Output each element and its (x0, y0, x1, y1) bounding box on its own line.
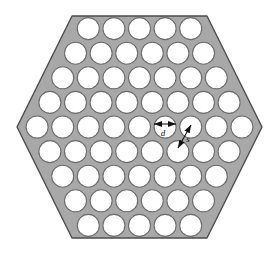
hole (116, 141, 138, 163)
hole (77, 116, 99, 138)
hole (39, 141, 61, 163)
hole (65, 190, 87, 212)
hole (65, 141, 87, 163)
hole (90, 91, 112, 113)
figure-canvas: ds (0, 0, 279, 253)
perforated-plate-diagram: ds (0, 0, 279, 253)
hole (90, 190, 112, 212)
hole (52, 165, 74, 187)
hole (193, 91, 215, 113)
hole (154, 214, 176, 236)
pitch-label: s (186, 134, 190, 144)
hole (116, 42, 138, 64)
hole (205, 67, 227, 89)
hole (154, 18, 176, 40)
hole (167, 190, 189, 212)
hole (103, 214, 125, 236)
hole (103, 116, 125, 138)
hole (180, 116, 202, 138)
hole (180, 18, 202, 40)
hole (180, 214, 202, 236)
hole (65, 42, 87, 64)
hole (193, 141, 215, 163)
hole (141, 42, 163, 64)
hole (26, 116, 48, 138)
hole (218, 141, 240, 163)
hole (116, 190, 138, 212)
hole (231, 116, 253, 138)
hole (129, 165, 151, 187)
hole (193, 42, 215, 64)
diameter-label: d (161, 128, 166, 138)
hole (103, 18, 125, 40)
hole (193, 190, 215, 212)
hole (129, 116, 151, 138)
hole (77, 214, 99, 236)
hole (129, 214, 151, 236)
hole (129, 18, 151, 40)
hole (77, 165, 99, 187)
hole (167, 91, 189, 113)
hole (52, 116, 74, 138)
hole (141, 190, 163, 212)
hole (180, 165, 202, 187)
hole (205, 116, 227, 138)
hole (77, 67, 99, 89)
hole (141, 91, 163, 113)
hole (154, 165, 176, 187)
hole (90, 42, 112, 64)
hole (129, 67, 151, 89)
hole (77, 18, 99, 40)
hole (141, 141, 163, 163)
hole (167, 42, 189, 64)
hole (52, 67, 74, 89)
hole (116, 91, 138, 113)
hole (180, 67, 202, 89)
hole (218, 91, 240, 113)
hole (154, 67, 176, 89)
hole (103, 67, 125, 89)
hole (65, 91, 87, 113)
hole (90, 141, 112, 163)
hole (103, 165, 125, 187)
hole (205, 165, 227, 187)
hole (39, 91, 61, 113)
